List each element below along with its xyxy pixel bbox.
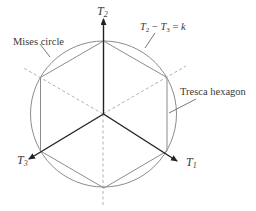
yield-equation-label: T2 − T3 = k bbox=[140, 21, 186, 34]
axis-label-t1: T1 bbox=[186, 155, 197, 170]
yield-surface-diagram: T2 T1 T3 Mises circle Tresca hexagon T2 … bbox=[0, 0, 256, 211]
equation-leader-line bbox=[145, 33, 155, 48]
axis-t1-arrow bbox=[104, 114, 178, 161]
tresca-hexagon-label: Tresca hexagon bbox=[180, 86, 247, 97]
axis-label-t2: T2 bbox=[97, 4, 108, 19]
dashed-line-upper-right bbox=[103, 66, 186, 114]
tresca-leader-line bbox=[169, 99, 196, 113]
mises-circle-label: Mises circle bbox=[13, 36, 64, 47]
axis-label-t3: T3 bbox=[17, 153, 28, 168]
